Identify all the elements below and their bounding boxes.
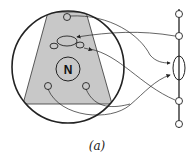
left-bottom-node [45,83,52,90]
cluster-left-ellipse [50,43,58,49]
axis-node-1 [176,11,183,18]
right-bottom-node [83,83,90,90]
cluster-right-ellipse [76,42,84,48]
cluster-center-ellipse [57,36,77,46]
top-node [64,14,71,21]
center-label: N [64,63,73,77]
trapezoid-region [23,12,112,104]
axis-node-3 [176,98,183,105]
figure-caption: (a) [0,139,194,153]
axis-node-4 [176,121,183,128]
axis-node-2 [176,33,183,40]
